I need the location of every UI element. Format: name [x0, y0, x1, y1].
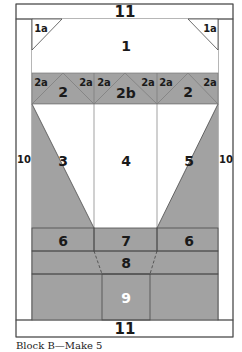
label-unit-corner: 2a — [97, 77, 111, 88]
label-side-left: 3 — [58, 153, 68, 169]
label-unit-corner: 2a — [79, 77, 93, 88]
label-lower-center: 7 — [121, 233, 131, 249]
label-unit-left: 2 — [58, 84, 68, 100]
label-unit-center: 2b — [116, 85, 136, 101]
label-side-right: 5 — [184, 153, 194, 169]
label-unit-corner: 2a — [203, 77, 217, 88]
label-top-border: 11 — [115, 3, 136, 21]
label-unit-corner: 2a — [159, 77, 173, 88]
figure-caption: Block B—Make 5 — [16, 340, 102, 352]
label-corner-left: 1a — [34, 23, 48, 34]
label-lower-left: 6 — [58, 233, 68, 249]
label-base-block: 9 — [121, 290, 131, 306]
label-unit-corner: 2a — [34, 77, 48, 88]
label-lower-right: 6 — [184, 233, 194, 249]
left-border-piece — [16, 19, 32, 320]
label-top-piece: 1 — [121, 38, 131, 54]
label-unit-corner: 2a — [141, 77, 155, 88]
label-bottom-border: 11 — [115, 320, 136, 338]
label-band: 8 — [121, 255, 131, 271]
label-center-panel: 4 — [121, 153, 131, 169]
label-right-border: 10 — [219, 154, 233, 165]
label-left-border: 10 — [17, 154, 31, 165]
label-corner-right: 1a — [203, 23, 217, 34]
right-border-piece — [218, 19, 233, 320]
label-unit-right: 2 — [183, 84, 193, 100]
